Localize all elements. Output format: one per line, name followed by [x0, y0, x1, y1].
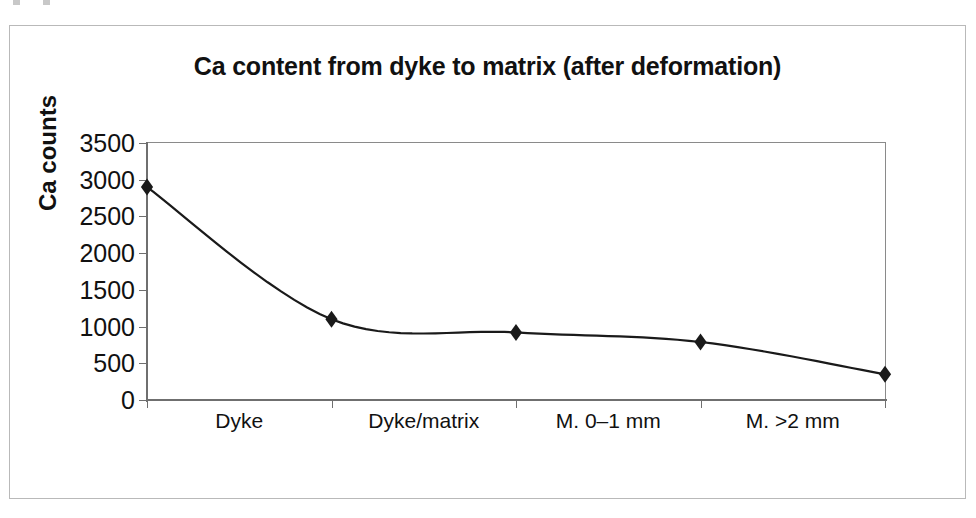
y-axis-tick-label: 3000 — [79, 165, 135, 194]
y-axis-tick — [139, 253, 147, 254]
data-point-marker — [325, 311, 337, 328]
y-axis-tick — [139, 143, 147, 144]
chart-title: Ca content from dyke to matrix (after de… — [10, 52, 965, 81]
y-axis-tick-label: 500 — [93, 349, 135, 378]
y-axis-title: Ca counts — [34, 95, 62, 211]
y-axis-tick-label: 0 — [121, 386, 135, 415]
y-axis-tick — [139, 290, 147, 291]
scan-artifact-marks — [0, 0, 976, 22]
y-axis-tick-label: 2500 — [79, 202, 135, 231]
y-axis-tick-label: 1500 — [79, 275, 135, 304]
data-point-marker — [879, 366, 891, 383]
y-axis-tick — [139, 327, 147, 328]
data-point-marker — [694, 333, 706, 350]
y-axis-tick — [139, 400, 147, 401]
plot-area: 0500100015002000250030003500 DykeDyke/ma… — [146, 142, 886, 401]
scan-mark-right — [43, 0, 50, 5]
x-axis-tick-label: M. 0–1 mm — [556, 409, 661, 433]
series-line-chart — [147, 143, 887, 402]
y-axis-tick — [139, 216, 147, 217]
series-markers — [141, 179, 891, 383]
series-line — [147, 187, 885, 374]
y-axis-tick — [139, 363, 147, 364]
chart-figure-frame: Ca content from dyke to matrix (after de… — [9, 25, 966, 499]
data-point-marker — [141, 179, 153, 196]
x-axis-tick-label: Dyke — [215, 409, 263, 433]
y-axis-tick-label: 2000 — [79, 239, 135, 268]
y-axis-tick-label: 3500 — [79, 129, 135, 158]
y-axis-tick-label: 1000 — [79, 312, 135, 341]
scan-mark-left — [13, 0, 20, 5]
x-axis-tick-label: M. >2 mm — [746, 409, 840, 433]
x-axis-tick-label: Dyke/matrix — [368, 409, 479, 433]
data-point-marker — [510, 324, 522, 341]
